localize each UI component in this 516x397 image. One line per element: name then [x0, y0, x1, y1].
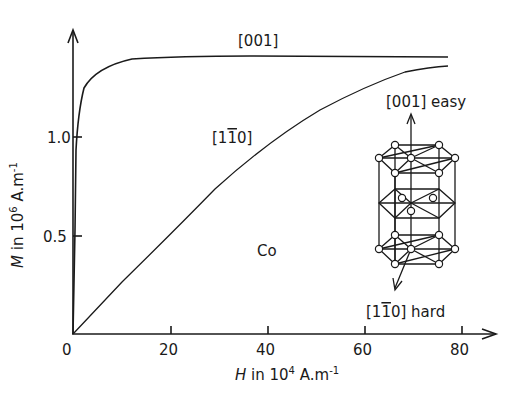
hcp-crystal-diagram [379, 114, 455, 290]
x-tick-label: 0 [62, 341, 72, 359]
y-axis-title: M in 106 A.m-1 [8, 162, 27, 268]
x-axis-title: H in 104 A.m-1 [235, 365, 339, 384]
curve-001-label: [001] [238, 32, 278, 50]
magnetization-chart: 0 20 40 60 80 1.0 0.5 H in 104 A.m-1 M i… [0, 0, 516, 397]
x-tick-label: 80 [450, 341, 469, 359]
hard-axis-label: [110] hard [366, 303, 445, 321]
y-tick-label: 0.5 [43, 228, 67, 246]
x-tick-label: 40 [256, 341, 275, 359]
axes [68, 30, 496, 339]
curve-1-10-label: [110] [212, 129, 252, 147]
hard-arrow-icon [393, 278, 402, 290]
y-tick-label: 1.0 [47, 129, 71, 147]
x-tick-label: 60 [353, 341, 372, 359]
easy-axis-label: [001] easy [386, 93, 466, 111]
x-tick-label: 20 [159, 341, 178, 359]
material-label: Co [257, 242, 277, 260]
